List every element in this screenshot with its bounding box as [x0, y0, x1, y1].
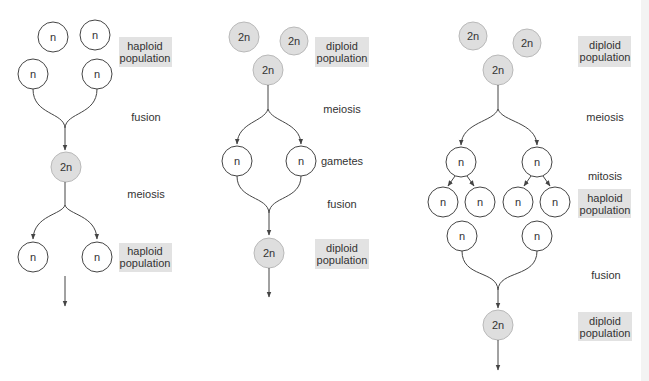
step-label-fusion: fusion: [131, 111, 160, 123]
arrow-icon: [448, 176, 455, 186]
arrow-icon: [33, 205, 65, 239]
population-label: population: [120, 52, 171, 64]
fusion-connector: [462, 251, 537, 290]
haploid-cell: n: [540, 187, 570, 217]
haploid-cell: n: [82, 59, 112, 89]
svg-text:2n: 2n: [288, 35, 300, 47]
gamete-cell: n: [447, 221, 477, 251]
diploid-cell: 2n: [513, 29, 541, 57]
population-label: population: [120, 257, 171, 269]
svg-text:2n: 2n: [492, 319, 504, 331]
diploid-cell: 2n: [459, 22, 487, 50]
panel-diplontic: 2n 2n 2n n n: [222, 22, 369, 297]
arrow-icon: [467, 176, 474, 186]
diploid-cell: 2n: [483, 55, 513, 85]
haploid-cell: n: [80, 20, 110, 50]
fusion-connector: [237, 176, 301, 213]
population-label: population: [317, 52, 368, 64]
svg-text:n: n: [92, 29, 98, 41]
gamete-cell: n: [522, 221, 552, 251]
panel-haplodiplontic: 2n 2n 2n n n: [428, 22, 632, 370]
svg-text:2n: 2n: [238, 31, 250, 43]
step-label-meiosis: meiosis: [323, 103, 361, 115]
diploid-zygote: 2n: [483, 310, 513, 340]
panel-haplontic: n n n n 2n: [18, 20, 172, 306]
haploid-cell: n: [18, 59, 48, 89]
svg-text:2n: 2n: [263, 247, 275, 259]
svg-text:n: n: [94, 68, 100, 80]
svg-text:n: n: [552, 196, 558, 208]
gamete-cell: n: [222, 146, 252, 176]
svg-text:2n: 2n: [467, 30, 479, 42]
diploid-zygote: 2n: [51, 152, 81, 182]
life-cycle-diagram: n n n n 2n: [0, 0, 649, 381]
haploid-cell: n: [38, 22, 68, 52]
svg-text:n: n: [477, 196, 483, 208]
arrow-icon: [237, 109, 268, 144]
population-label: diploid: [589, 315, 621, 327]
svg-text:n: n: [234, 155, 240, 167]
gamete-cell: n: [286, 146, 316, 176]
population-label: population: [580, 51, 631, 63]
svg-text:n: n: [515, 196, 521, 208]
population-label: haploid: [587, 192, 622, 204]
step-label-meiosis: meiosis: [586, 111, 624, 123]
arrow-icon: [524, 176, 531, 186]
svg-text:n: n: [30, 68, 36, 80]
diploid-zygote: 2n: [254, 238, 284, 268]
haploid-cell: n: [428, 187, 458, 217]
haploid-cell: n: [18, 242, 48, 272]
svg-text:n: n: [534, 156, 540, 168]
step-label-fusion: fusion: [327, 198, 356, 210]
population-label: population: [580, 327, 631, 339]
step-label-gametes: gametes: [321, 155, 364, 167]
arrow-icon: [498, 109, 537, 145]
svg-text:2n: 2n: [262, 64, 274, 76]
spore-cell: n: [522, 147, 552, 177]
diploid-cell: 2n: [253, 55, 283, 85]
svg-text:n: n: [440, 196, 446, 208]
arrow-icon: [65, 205, 97, 239]
population-label: diploid: [326, 40, 358, 52]
haploid-cell: n: [465, 187, 495, 217]
step-label-mitosis: mitosis: [588, 170, 623, 182]
svg-text:n: n: [298, 155, 304, 167]
fusion-connector: [33, 89, 97, 128]
population-label: population: [580, 204, 631, 216]
population-label: haploid: [127, 40, 162, 52]
haploid-cell: n: [82, 242, 112, 272]
arrow-icon: [268, 109, 301, 144]
svg-text:2n: 2n: [60, 161, 72, 173]
diploid-cell: 2n: [229, 22, 259, 52]
svg-text:n: n: [30, 251, 36, 263]
spore-cell: n: [446, 147, 476, 177]
diploid-cell: 2n: [280, 27, 308, 55]
svg-text:n: n: [458, 156, 464, 168]
arrow-icon: [543, 176, 550, 186]
svg-text:n: n: [459, 230, 465, 242]
svg-text:2n: 2n: [492, 64, 504, 76]
population-label: haploid: [127, 245, 162, 257]
edge-strip: [641, 0, 649, 381]
svg-text:n: n: [94, 251, 100, 263]
svg-text:n: n: [534, 230, 540, 242]
haploid-cell: n: [503, 187, 533, 217]
population-label: diploid: [326, 242, 358, 254]
arrow-icon: [461, 109, 498, 145]
svg-text:2n: 2n: [521, 37, 533, 49]
svg-text:n: n: [50, 31, 56, 43]
step-label-fusion: fusion: [591, 269, 620, 281]
population-label: population: [317, 254, 368, 266]
step-label-meiosis: meiosis: [127, 188, 165, 200]
population-label: diploid: [589, 39, 621, 51]
